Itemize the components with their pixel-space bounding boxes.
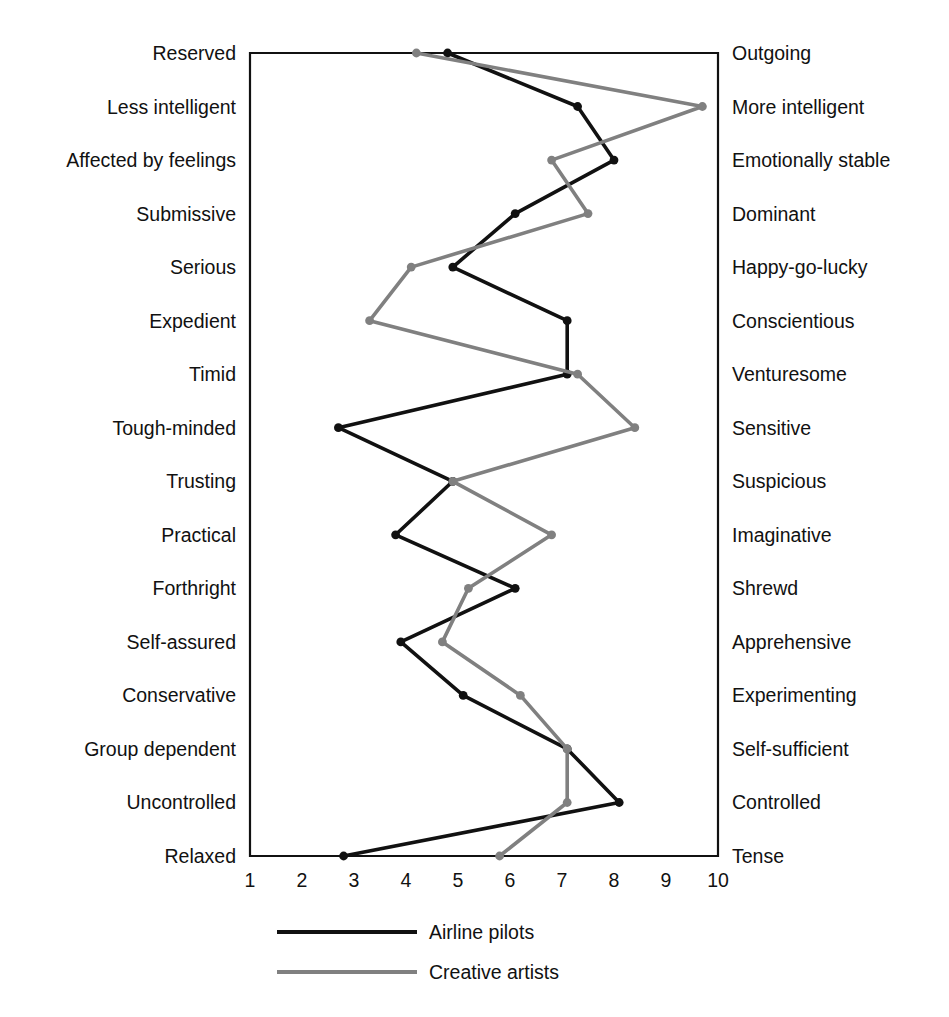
x-axis-tick-label: 2 — [282, 870, 322, 890]
x-axis-tick-label: 1 — [230, 870, 270, 890]
profile-plot — [0, 0, 949, 1017]
series-line — [370, 53, 703, 856]
data-point — [698, 102, 707, 111]
data-point — [391, 530, 400, 539]
data-point — [365, 316, 374, 325]
x-axis-tick-label: 6 — [490, 870, 530, 890]
data-point — [615, 798, 624, 807]
data-point — [339, 852, 348, 861]
data-point — [547, 530, 556, 539]
legend-swatch-creative-artists — [277, 970, 417, 974]
data-point — [563, 745, 572, 754]
x-axis-tick-label: 4 — [386, 870, 426, 890]
x-axis-tick-label: 7 — [542, 870, 582, 890]
data-point — [630, 423, 639, 432]
data-point — [396, 638, 405, 647]
series-airline-pilots — [334, 49, 624, 861]
data-point — [516, 691, 525, 700]
legend-label-creative-artists: Creative artists — [429, 962, 559, 982]
data-point — [407, 263, 416, 272]
data-point — [459, 691, 468, 700]
data-point — [610, 156, 619, 165]
data-point — [495, 852, 504, 861]
x-axis-tick-label: 9 — [646, 870, 686, 890]
data-point — [511, 209, 520, 218]
data-point — [511, 584, 520, 593]
series-line — [338, 53, 619, 856]
legend-item-creative-artists: Creative artists — [277, 962, 559, 982]
data-point — [438, 638, 447, 647]
plot-frame — [250, 53, 718, 856]
chart-canvas: ReservedLess intelligentAffected by feel… — [0, 0, 949, 1017]
data-point — [334, 423, 343, 432]
data-point — [584, 209, 593, 218]
x-axis-tick-label: 5 — [438, 870, 478, 890]
data-point — [573, 102, 582, 111]
legend-swatch-airline-pilots — [277, 930, 417, 934]
data-point — [573, 370, 582, 379]
data-point — [448, 263, 457, 272]
data-point — [443, 49, 452, 58]
data-point — [464, 584, 473, 593]
x-axis-tick-label: 10 — [698, 870, 738, 890]
data-point — [547, 156, 556, 165]
data-point — [412, 49, 421, 58]
x-axis-tick-label: 8 — [594, 870, 634, 890]
data-point — [563, 316, 572, 325]
x-axis-tick-label: 3 — [334, 870, 374, 890]
data-point — [448, 477, 457, 486]
series-creative-artists — [365, 49, 707, 861]
legend-label-airline-pilots: Airline pilots — [429, 922, 534, 942]
data-point — [563, 798, 572, 807]
legend-item-airline-pilots: Airline pilots — [277, 922, 534, 942]
